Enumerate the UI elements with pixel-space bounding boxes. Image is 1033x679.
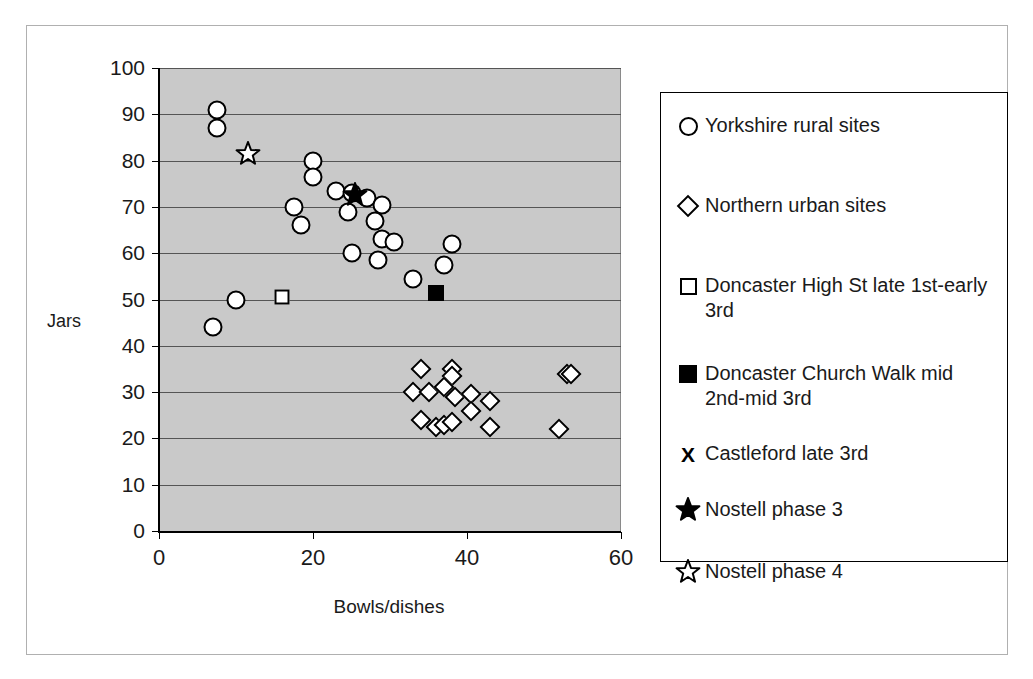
gridline — [159, 485, 621, 486]
point-open-circle — [207, 100, 226, 119]
y-tick-label: 70 — [85, 196, 145, 217]
y-tick — [152, 68, 159, 69]
x-mark-icon: X — [671, 441, 705, 467]
y-tick — [152, 485, 159, 486]
x-tick-label: 0 — [129, 547, 189, 569]
legend-item-label: Doncaster High St late 1st-early 3rd — [705, 273, 997, 323]
open-diamond-icon — [671, 193, 705, 219]
y-tick-label: 60 — [85, 242, 145, 263]
point-filled-star — [342, 182, 368, 208]
point-open-circle — [369, 251, 388, 270]
x-tick-label: 60 — [591, 547, 651, 569]
open-square-icon — [671, 273, 705, 299]
y-tick-label: 40 — [85, 335, 145, 356]
point-open-circle — [384, 232, 403, 251]
point-open-circle — [342, 244, 361, 263]
gridline — [159, 68, 621, 69]
point-open-circle — [442, 234, 461, 253]
y-tick-label: 0 — [85, 520, 145, 541]
scatter-chart: 0102030405060708090100 0204060 Jars Bowl… — [27, 26, 687, 656]
y-tick-label: 80 — [85, 150, 145, 171]
gridline — [159, 346, 621, 347]
filled-star-icon — [671, 497, 705, 523]
y-tick-label: 30 — [85, 381, 145, 402]
point-open-circle — [304, 167, 323, 186]
y-tick — [152, 114, 159, 115]
point-open-circle — [207, 119, 226, 138]
y-tick-label: 90 — [85, 103, 145, 124]
open-star-icon — [671, 559, 705, 585]
point-open-circle — [404, 269, 423, 288]
legend-item-label: Yorkshire rural sites — [705, 113, 997, 138]
x-axis-title: Bowls/dishes — [259, 596, 519, 618]
point-open-circle — [203, 318, 222, 337]
legend-item-label: Nostell phase 4 — [705, 559, 997, 584]
gridline — [159, 392, 621, 393]
gridline — [159, 253, 621, 254]
legend-item-label: Nostell phase 3 — [705, 497, 997, 522]
legend-item-label: Northern urban sites — [705, 193, 997, 218]
x-tick-label: 40 — [437, 547, 497, 569]
point-open-circle — [284, 197, 303, 216]
y-tick-label: 10 — [85, 474, 145, 495]
y-tick-label: 100 — [85, 57, 145, 78]
open-circle-icon — [671, 113, 705, 139]
y-tick — [152, 161, 159, 162]
gridline — [159, 161, 621, 162]
point-open-circle — [434, 255, 453, 274]
x-tick — [159, 532, 160, 539]
filled-square-icon — [671, 361, 705, 387]
chart-page: 0102030405060708090100 0204060 Jars Bowl… — [0, 0, 1033, 679]
point-open-circle — [227, 290, 246, 309]
y-tick — [152, 346, 159, 347]
gridline — [159, 438, 621, 439]
x-tick — [467, 532, 468, 539]
x-tick — [313, 532, 314, 539]
y-axis-title: Jars — [47, 311, 81, 332]
gridline — [159, 114, 621, 115]
legend-item-3[interactable]: Doncaster High St late 1st-early 3rd — [671, 273, 997, 323]
y-tick — [152, 531, 159, 532]
y-tick — [152, 300, 159, 301]
point-open-star — [235, 141, 261, 167]
y-tick — [152, 438, 159, 439]
legend-item-6[interactable]: Nostell phase 3 — [671, 497, 997, 523]
point-open-circle — [292, 216, 311, 235]
figure-frame: 0102030405060708090100 0204060 Jars Bowl… — [26, 25, 1008, 655]
legend-item-label: Doncaster Church Walk mid 2nd-mid 3rd — [705, 361, 997, 411]
legend-item-4[interactable]: Doncaster Church Walk mid 2nd-mid 3rd — [671, 361, 997, 411]
x-tick-label: 20 — [283, 547, 343, 569]
point-filled-square — [428, 285, 444, 301]
x-tick — [621, 532, 622, 539]
legend-item-label: Castleford late 3rd — [705, 441, 997, 466]
legend-item-7[interactable]: Nostell phase 4 — [671, 559, 997, 585]
y-tick-label: 20 — [85, 427, 145, 448]
chart-legend: Yorkshire rural sitesNorthern urban site… — [660, 92, 1008, 562]
legend-item-2[interactable]: Northern urban sites — [671, 193, 997, 219]
legend-item-1[interactable]: Yorkshire rural sites — [671, 113, 997, 139]
point-open-square — [275, 290, 290, 305]
y-tick-label: 50 — [85, 289, 145, 310]
x-axis-line — [158, 531, 621, 533]
y-tick — [152, 253, 159, 254]
y-tick — [152, 392, 159, 393]
y-tick — [152, 207, 159, 208]
legend-item-5[interactable]: XCastleford late 3rd — [671, 441, 997, 467]
point-open-circle — [365, 211, 384, 230]
